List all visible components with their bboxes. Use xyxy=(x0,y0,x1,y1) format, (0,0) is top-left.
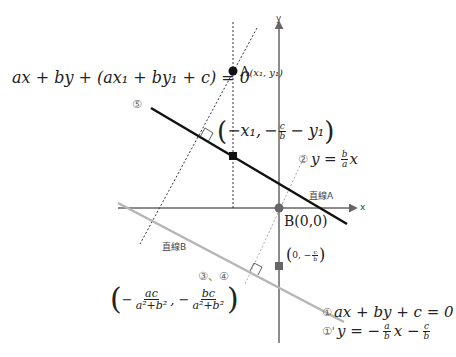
equation-1-prime: ①' y = − a b x − c b xyxy=(322,322,431,341)
fraction-bc: bc a²+b² xyxy=(191,288,225,311)
x-axis-label: x xyxy=(360,203,365,212)
fraction-c-b: c b xyxy=(279,122,287,141)
intercept-label: ( 0, − c b ) xyxy=(286,247,325,263)
foot-point-6 xyxy=(229,152,237,160)
point-a-label: A(x₁, y₁) xyxy=(240,65,283,78)
line-a-label: 直線A xyxy=(309,192,333,201)
point-b-label: B(0,0) xyxy=(284,214,327,228)
equation-2: ② y = b a x xyxy=(298,150,358,169)
markers-3-4: ③、④ xyxy=(198,271,229,282)
point-b xyxy=(275,204,284,213)
marker-6: ⑤ xyxy=(132,99,142,110)
line-b-label: 直線B xyxy=(162,243,186,252)
fraction-ac: ac a²+b² xyxy=(135,288,169,311)
fraction-a-b: a b xyxy=(383,322,391,341)
intercept-point xyxy=(275,262,283,270)
y-axis-label: y xyxy=(276,14,281,23)
foot-point-b-label: ( − ac a²+b² , − bc a²+b² ) xyxy=(110,284,239,314)
equation-1: ① ax + by + c = 0 xyxy=(322,305,454,320)
fraction-c-b-2: c b xyxy=(423,322,431,341)
foot-point-label: ( −x₁, − c b − y₁ ) xyxy=(217,118,334,144)
fraction-b-a: b a xyxy=(341,150,349,169)
equation-6: ax + by + (ax₁ + by₁ + c) = 0 xyxy=(12,70,250,86)
fraction-c-b-small: c b xyxy=(312,249,318,262)
